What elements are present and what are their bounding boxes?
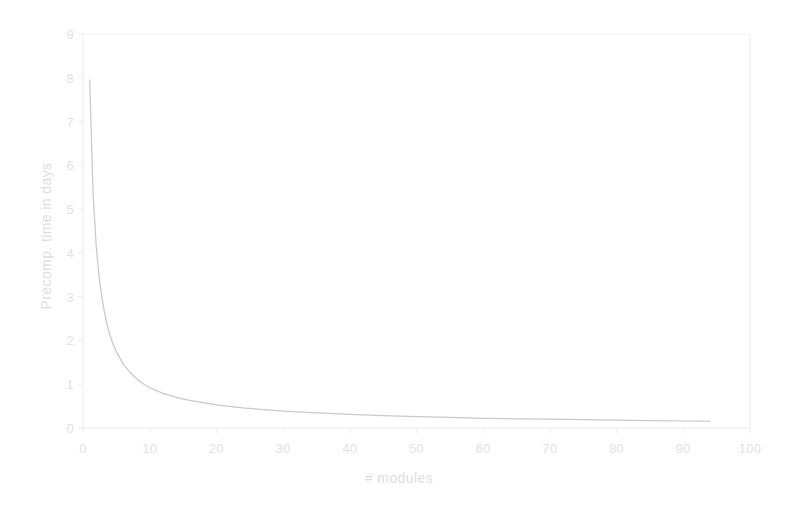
y-axis-tick-label: 8 xyxy=(52,71,74,86)
x-axis-tick-label: 80 xyxy=(597,441,637,456)
x-axis-tick-label: 90 xyxy=(663,441,703,456)
data-series-line xyxy=(90,80,710,421)
y-axis-tick-label: 5 xyxy=(52,202,74,217)
x-axis-tick-label: 30 xyxy=(263,441,303,456)
x-axis-tick-label: 20 xyxy=(196,441,236,456)
y-axis-tick-label: 9 xyxy=(52,27,74,42)
y-axis-tick-label: 0 xyxy=(52,421,74,436)
y-axis-tick-label: 7 xyxy=(52,115,74,130)
x-axis-tick-label: 0 xyxy=(63,441,103,456)
y-axis-title: Precomp. time in days xyxy=(38,116,54,356)
x-axis-tick-label: 40 xyxy=(330,441,370,456)
chart-plot-svg xyxy=(0,0,798,512)
y-axis-tick-label: 6 xyxy=(52,158,74,173)
y-axis-tick-label: 2 xyxy=(52,333,74,348)
x-axis-tick-label: 10 xyxy=(130,441,170,456)
y-axis-tick-label: 1 xyxy=(52,377,74,392)
chart-container: 9 8 7 6 5 4 3 2 1 0 0 10 20 30 40 50 60 … xyxy=(0,0,798,512)
y-axis-tick-label: 4 xyxy=(52,246,74,261)
y-axis-tick-label: 3 xyxy=(52,290,74,305)
plot-frame xyxy=(83,34,750,428)
x-axis-tick-label: 100 xyxy=(730,441,770,456)
x-axis-tick-label: 70 xyxy=(530,441,570,456)
x-axis-title: # modules xyxy=(0,470,798,486)
x-axis-tick-label: 50 xyxy=(397,441,437,456)
x-axis-ticks xyxy=(83,428,750,433)
y-axis-ticks xyxy=(78,34,83,428)
x-axis-tick-label: 60 xyxy=(463,441,503,456)
